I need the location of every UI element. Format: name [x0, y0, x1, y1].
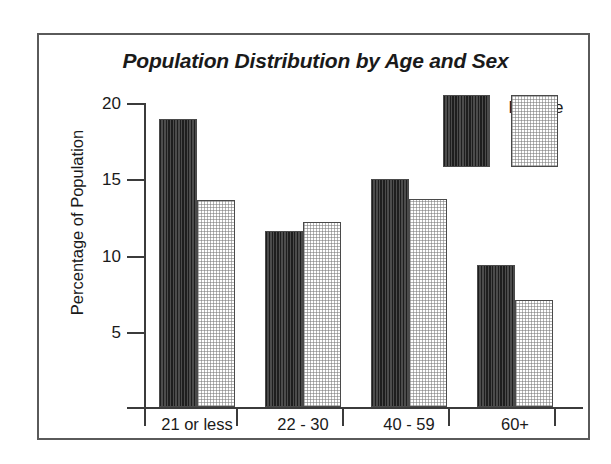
y-tick-label-20: 20 [85, 95, 121, 112]
chart-legend: Male Female [443, 95, 588, 200]
bar-female-60-plus [515, 300, 553, 407]
y-tick-label-5: 5 [85, 324, 121, 341]
bar-male-40-59 [371, 179, 409, 407]
bar-male-60-plus [477, 265, 515, 407]
x-category-label-60-plus: 60+ [463, 415, 567, 434]
y-tick-mark-20 [127, 103, 145, 105]
y-tick-mark-5 [127, 332, 145, 334]
bar-female-22-30 [303, 222, 341, 407]
chart-figure-frame: Population Distribution by Age and Sex P… [37, 33, 590, 440]
x-category-label-22-30: 22 - 30 [251, 415, 355, 434]
legend-entry-female: Female [511, 95, 567, 117]
y-tick-label-15: 15 [85, 171, 121, 188]
legend-swatch-female-icon [511, 95, 558, 167]
x-category-label-40-59: 40 - 59 [357, 415, 461, 434]
x-category-label-21-or-less: 21 or less [145, 415, 249, 434]
legend-swatch-male-icon [443, 95, 490, 167]
legend-entry-male: Male [443, 95, 499, 117]
bar-female-40-59 [409, 199, 447, 407]
bar-male-22-30 [265, 231, 303, 407]
bar-male-21-or-less [159, 119, 197, 407]
plot-area: Percentage of Population 20 15 10 5 21 o… [39, 35, 592, 442]
x-axis-line [127, 407, 583, 409]
y-axis-title: Percentage of Population [68, 93, 87, 353]
y-tick-mark-10 [127, 256, 145, 258]
y-tick-mark-15 [127, 179, 145, 181]
y-tick-label-10: 10 [85, 248, 121, 265]
bar-female-21-or-less [197, 200, 235, 407]
